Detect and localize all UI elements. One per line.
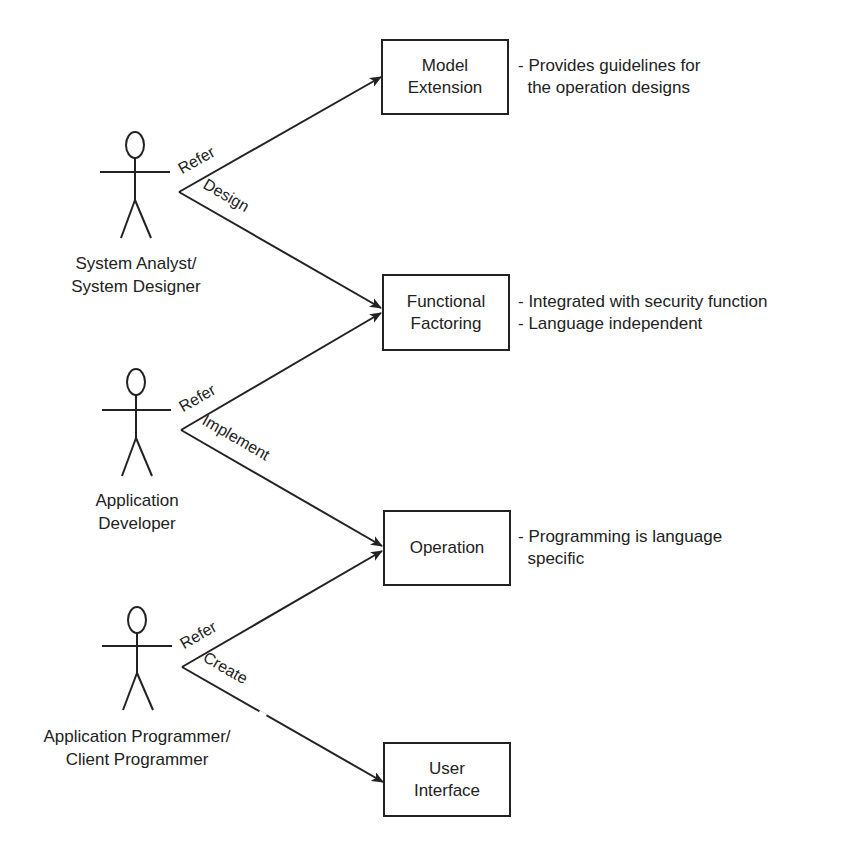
actor-label-line: Application [95, 489, 178, 512]
box-label-line: Interface [414, 780, 480, 802]
actor-label-line: Application Programmer/ [43, 725, 230, 748]
actor-figure-application-developer [102, 369, 171, 476]
box-operation: Operation [383, 510, 511, 586]
actor-figure-system-analyst [100, 132, 170, 238]
actor-label-line: System Analyst/ [71, 252, 200, 275]
actor-figure-application-programmer [102, 607, 172, 710]
note-line: - Provides guidelines for [518, 55, 700, 77]
actor-label-line: Client Programmer [43, 748, 230, 771]
actor-label-application-developer: Application Developer [95, 489, 178, 535]
actor-label-system-analyst: System Analyst/ System Designer [71, 252, 200, 298]
note-operation: - Programming is language specific [518, 526, 722, 570]
note-line: - Integrated with security function [518, 291, 767, 313]
actor-label-line: Developer [95, 512, 178, 535]
box-label-line: Operation [410, 537, 485, 559]
actor-label-application-programmer: Application Programmer/ Client Programme… [43, 725, 230, 771]
note-line: - Programming is language [518, 526, 722, 548]
box-label-line: Factoring [411, 313, 482, 335]
note-functional-factoring: - Integrated with security function - La… [518, 291, 767, 335]
box-label-line: Model [422, 55, 468, 77]
edge-gap [259, 712, 266, 716]
edge-implement-operation [181, 430, 382, 546]
box-model-extension: Model Extension [381, 39, 509, 115]
box-label-line: User [429, 758, 465, 780]
note-line: specific [518, 548, 722, 570]
actor-label-line: System Designer [71, 275, 200, 298]
note-line: the operation designs [518, 77, 700, 99]
note-model-extension: - Provides guidelines for the operation … [518, 55, 700, 99]
box-label-line: Extension [408, 77, 483, 99]
use-case-diagram: Refer Design Refer Implement Refer Creat… [0, 0, 854, 853]
box-user-interface: User Interface [383, 742, 511, 817]
box-functional-factoring: Functional Factoring [382, 274, 510, 351]
edge-design-functional-factoring [179, 192, 381, 308]
note-line: - Language independent [518, 313, 767, 335]
box-label-line: Functional [407, 291, 485, 313]
